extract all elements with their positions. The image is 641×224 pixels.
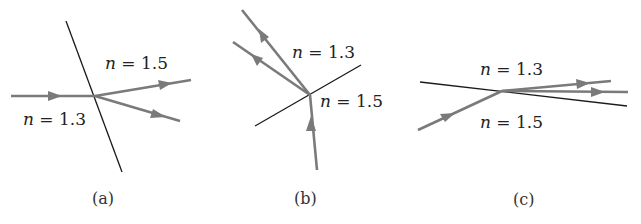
caption-b: (b)	[294, 189, 317, 208]
outgoing-ray-a1	[95, 80, 191, 96]
label-upper-c: n = 1.3	[480, 59, 543, 79]
outgoing-ray-c2	[502, 91, 628, 92]
caption-a: (a)	[92, 189, 114, 208]
label-lower-a: n = 1.3	[23, 109, 86, 129]
label-lower-b: n = 1.5	[320, 91, 383, 111]
arrowhead-icon	[591, 87, 605, 97]
outgoing-ray-a2	[95, 96, 180, 121]
arrowhead-icon	[440, 113, 455, 122]
label-upper-b: n = 1.3	[292, 42, 355, 62]
panel-c: n = 1.3 n = 1.5 (c)	[418, 59, 628, 209]
caption-c: (c)	[513, 190, 534, 209]
refraction-figure: n = 1.5 n = 1.3 (a) n = 1.3 n = 1.5 (b) …	[0, 0, 641, 224]
label-lower-c: n = 1.5	[480, 112, 543, 132]
panel-b: n = 1.3 n = 1.5 (b)	[233, 10, 383, 208]
incident-ray-b	[310, 95, 317, 170]
arrowhead-icon	[48, 91, 62, 101]
arrowhead-icon	[306, 116, 316, 131]
arrowhead-icon	[158, 80, 172, 90]
label-upper-a: n = 1.5	[105, 53, 168, 73]
arrowhead-icon	[150, 109, 166, 118]
arrowhead-icon	[251, 54, 263, 66]
panel-a: n = 1.5 n = 1.3 (a)	[11, 21, 191, 208]
